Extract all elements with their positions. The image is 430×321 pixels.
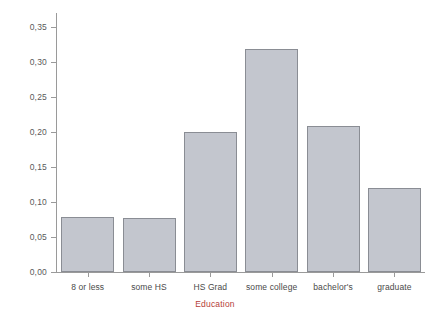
x-axis-category-label: some HS bbox=[118, 283, 179, 292]
y-axis-tick bbox=[51, 62, 56, 63]
y-axis-tick bbox=[51, 97, 56, 98]
y-axis-tick bbox=[51, 272, 56, 273]
y-axis-tick bbox=[51, 237, 56, 238]
y-axis-tick-label: 0,35 bbox=[7, 23, 47, 32]
bar bbox=[245, 49, 298, 272]
plot-area bbox=[57, 13, 425, 272]
y-axis-tick bbox=[51, 167, 56, 168]
x-axis-category-label: 8 or less bbox=[57, 283, 118, 292]
bar-chart: 0,000,050,100,150,200,250,300,35 8 or le… bbox=[0, 0, 430, 321]
x-axis-tick bbox=[210, 273, 211, 277]
y-axis-tick-label: 0,00 bbox=[7, 268, 47, 277]
y-axis-tick-label: 0,05 bbox=[7, 233, 47, 242]
y-axis-tick-label: 0,25 bbox=[7, 93, 47, 102]
x-axis-tick bbox=[394, 273, 395, 277]
x-axis-title: Education bbox=[0, 299, 430, 309]
x-axis-line bbox=[56, 272, 425, 273]
x-axis-category-label: graduate bbox=[364, 283, 425, 292]
x-axis-tick bbox=[149, 273, 150, 277]
x-axis-tick bbox=[88, 273, 89, 277]
x-axis-category-label: bachelor's bbox=[302, 283, 363, 292]
x-axis-category-label: HS Grad bbox=[180, 283, 241, 292]
bar bbox=[184, 132, 237, 272]
bar bbox=[307, 126, 360, 272]
y-axis-tick-label: 0,15 bbox=[7, 163, 47, 172]
x-axis-category-label: some college bbox=[241, 283, 302, 292]
y-axis-tick-label: 0,20 bbox=[7, 128, 47, 137]
y-axis-tick bbox=[51, 132, 56, 133]
y-axis-tick bbox=[51, 27, 56, 28]
y-axis-tick-label: 0,10 bbox=[7, 198, 47, 207]
bar bbox=[123, 218, 176, 272]
bar bbox=[368, 188, 421, 272]
bar bbox=[61, 217, 114, 272]
y-axis-tick-label: 0,30 bbox=[7, 58, 47, 67]
x-axis-tick bbox=[272, 273, 273, 277]
y-axis-tick bbox=[51, 202, 56, 203]
x-axis-tick bbox=[333, 273, 334, 277]
